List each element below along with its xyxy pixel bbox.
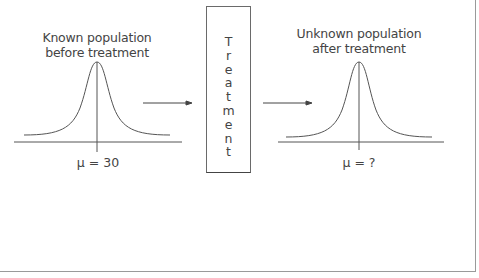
arrow-out-of-treatment-icon [263,101,312,105]
treatment-letter: t [207,145,250,159]
left-title-line2: before treatment [30,45,164,60]
treatment-letter: T [207,35,250,49]
right-mean-label: μ = ? [334,155,384,170]
treatment-letter: a [207,76,250,90]
right-title-line1: Unknown population [290,26,428,41]
arrow-into-treatment-icon [143,101,192,105]
treatment-letter: m [207,104,250,118]
left-population-title: Known population before treatment [30,30,164,60]
left-normal-curve [14,62,182,152]
treatment-label: T r e a t m e n t [207,35,250,159]
treatment-letter: e [207,63,250,77]
treatment-letter: n [207,132,250,146]
left-mean-label: μ = 30 [70,155,126,170]
right-population-title: Unknown population after treatment [290,26,428,56]
treatment-letter: r [207,49,250,63]
treatment-box: T r e a t m e n t [206,6,251,173]
right-normal-curve [278,62,444,150]
right-title-line2: after treatment [290,41,428,56]
left-title-line1: Known population [30,30,164,45]
treatment-letter: t [207,90,250,104]
treatment-letter: e [207,118,250,132]
